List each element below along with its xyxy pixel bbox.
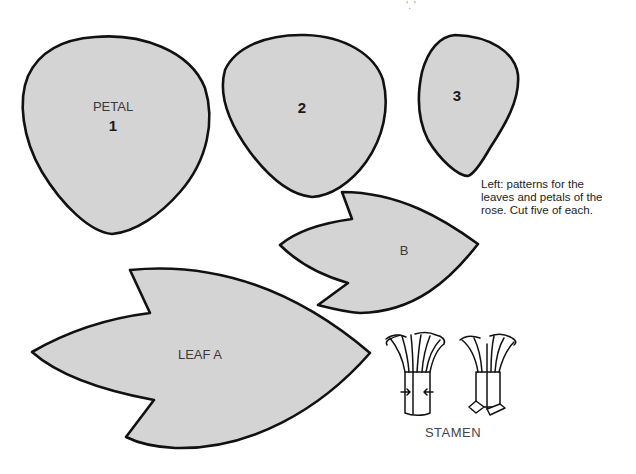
stamen-finished-illustration (460, 334, 516, 415)
petal-1-shape: PETAL 1 (23, 36, 210, 234)
leaf-a-label: LEAF A (178, 347, 222, 362)
petal-2-number: 2 (298, 99, 306, 116)
petal-3-number: 3 (453, 87, 461, 104)
stamen-rolled-illustration (386, 333, 445, 416)
leaf-b-shape: B (280, 192, 478, 313)
leaf-a-shape: LEAF A (32, 268, 370, 448)
caption-line-2: leaves and petals of the (481, 191, 631, 204)
caption: Left: patterns for the leaves and petals… (481, 178, 631, 217)
rose-pattern-diagram: PETAL 1 2 3 B LEAF A (0, 0, 636, 474)
petal-1-name-label: PETAL (93, 99, 133, 114)
petal-2-shape: 2 (223, 35, 386, 197)
stamen-label: STAMEN (425, 425, 481, 440)
petal-3-shape: 3 (419, 35, 518, 176)
leaf-b-label: B (400, 243, 409, 258)
petal-1-number: 1 (109, 117, 117, 134)
caption-line-3: rose. Cut five of each. (481, 204, 631, 217)
caption-line-1: Left: patterns for the (481, 178, 631, 191)
